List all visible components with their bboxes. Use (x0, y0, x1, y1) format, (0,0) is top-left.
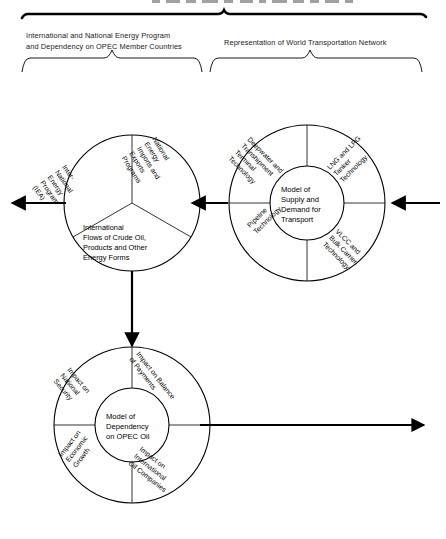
dependency-core-line-1: Dependency (106, 422, 149, 431)
dependency-core-label: Model of Dependency on OPEC Oil (106, 412, 150, 441)
flows-line-3: Energy Forms (83, 253, 130, 262)
dependency-quadrant-balance-payments: Impact on Balance of Payments (127, 350, 176, 406)
flows-line-2: Products and Other (83, 243, 148, 252)
diagram-canvas: Model of Supply and Demand for Transport… (0, 0, 446, 539)
dependency-core-line-0: Model of (106, 412, 136, 421)
transport-core-line-3: Transport (281, 215, 314, 224)
transport-quadrant-pipeline: Pipeline Technology (246, 198, 283, 235)
transport-circle: Model of Supply and Demand for Transport… (226, 125, 385, 281)
flows-line-0: International (83, 223, 124, 232)
transport-core-line-0: Model of (281, 185, 311, 194)
dependency-circle: Model of Dependency on OPEC Oil Impact o… (52, 347, 210, 503)
transport-core-label: Model of Supply and Demand for Transport (281, 185, 321, 224)
figure-root: International and National Energy Progra… (0, 0, 446, 539)
dependency-quadrant-oil-companies: Impact on International Oil Companies (127, 445, 180, 494)
dependency-core-line-2: on OPEC Oil (106, 432, 150, 441)
flows-line-1: Flows of Crude Oil, (83, 233, 146, 242)
transport-quadrant-deepwater: Deepwater and Transhipment Terminal Tech… (226, 136, 284, 194)
transport-core-line-1: Supply and (281, 195, 319, 204)
energy-wedge-imports-exports: National Energy Imports and Exports Prog… (120, 136, 177, 191)
brace-right (210, 50, 422, 72)
cropped-title-row (152, 0, 353, 3)
transport-quadrant-vlcc: VLCC and Bulk Carrier Technology (321, 228, 366, 273)
energy-wedge-flows: International Flows of Crude Oil, Produc… (83, 223, 148, 262)
transport-core-line-2: Demand for (281, 205, 321, 214)
brace-left (22, 50, 202, 72)
outer-brace (22, 10, 426, 18)
